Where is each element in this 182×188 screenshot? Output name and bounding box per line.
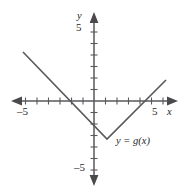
y-axis-down-arrow-icon bbox=[90, 175, 99, 186]
x-tick-label-5: 5 bbox=[152, 106, 158, 117]
x-axis-label: x bbox=[167, 107, 172, 118]
graph-canvas bbox=[0, 0, 182, 188]
function-equation-label: y = g(x) bbox=[116, 136, 150, 147]
y-tick-label-minus5: –5 bbox=[74, 162, 85, 173]
y-tick-label-5: 5 bbox=[76, 22, 82, 33]
y-axis-label: y bbox=[77, 11, 82, 22]
x-axis-right-arrow-icon bbox=[167, 97, 178, 106]
coordinate-plane-graph: y 5 –5 5 x –5 y = g(x) bbox=[0, 0, 182, 188]
x-tick-label-minus5: –5 bbox=[17, 106, 28, 117]
y-axis-up-arrow-icon bbox=[90, 12, 99, 23]
